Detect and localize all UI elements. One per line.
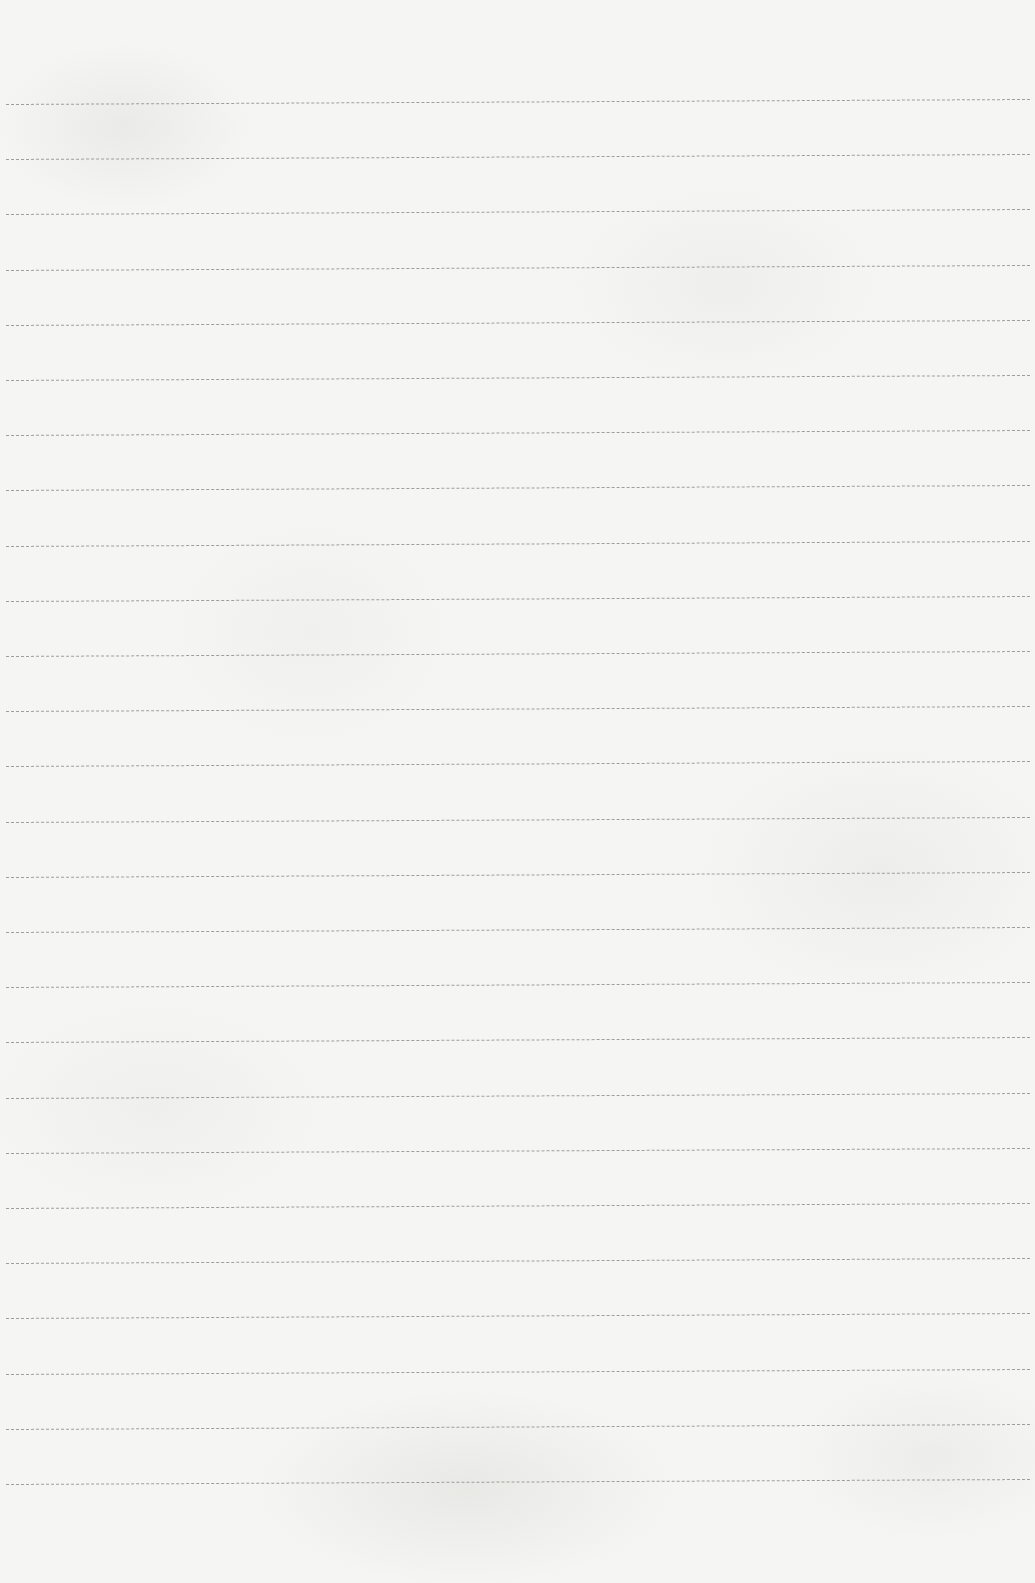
ruled-line (6, 1424, 1030, 1430)
ruled-line (6, 1093, 1030, 1099)
ruled-line (6, 1313, 1030, 1319)
ruled-line (6, 817, 1030, 823)
ruled-line (6, 154, 1030, 160)
ruled-line (6, 1258, 1030, 1264)
ruled-line (6, 706, 1030, 712)
ruled-line (6, 596, 1030, 602)
ruled-line (6, 651, 1030, 657)
lined-paper-sheet (0, 0, 1035, 1583)
ruled-line (6, 872, 1030, 878)
ruled-line (6, 1369, 1030, 1375)
ruled-line (6, 541, 1030, 547)
ruled-line (6, 430, 1030, 436)
ruled-line (6, 485, 1030, 491)
ruled-line (6, 761, 1030, 767)
ruled-line (6, 375, 1030, 381)
ruled-line (6, 1148, 1030, 1154)
ruled-line (6, 1479, 1030, 1485)
ruled-line (6, 265, 1030, 271)
ruled-line (6, 1203, 1030, 1209)
ruled-line (6, 982, 1030, 988)
ruled-line (6, 209, 1030, 215)
ruled-line (6, 927, 1030, 933)
ruled-line (6, 1037, 1030, 1043)
ruled-line (6, 99, 1030, 105)
ruled-line (6, 320, 1030, 326)
